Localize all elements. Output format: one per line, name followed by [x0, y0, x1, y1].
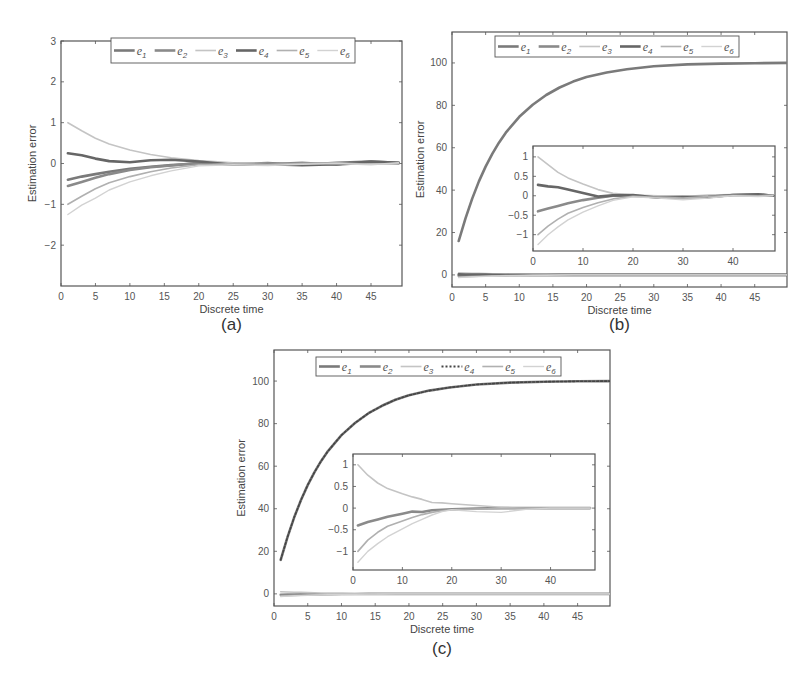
y-tick-label: 20: [436, 227, 448, 238]
x-tick-label: 25: [228, 291, 240, 302]
y-tick-label: 0.5: [514, 171, 528, 182]
y-tick-label: 80: [436, 100, 448, 111]
x-tick-label: 35: [682, 292, 694, 303]
x-tick-label: 15: [547, 292, 559, 303]
y-tick-label: 0: [50, 158, 56, 169]
x-tick-label: 45: [572, 611, 584, 622]
y-tick-label: 20: [258, 546, 270, 557]
panel-a-chart: 051015202530354045−2−10123Discrete timeE…: [26, 36, 402, 335]
y-tick-label: 1: [522, 151, 528, 162]
x-tick-label: 30: [648, 292, 660, 303]
x-tick-label: 20: [446, 575, 458, 586]
y-tick-label: 1: [50, 117, 56, 128]
x-axis-label: Discrete time: [199, 303, 263, 315]
y-tick-label: 100: [430, 57, 447, 68]
y-tick-label: 0: [441, 269, 447, 280]
x-tick-label: 10: [397, 575, 409, 586]
x-tick-label: 20: [193, 291, 205, 302]
panel-b-chart: 051015202530354045020406080100Discrete t…: [414, 32, 787, 334]
panel-caption: (a): [221, 315, 242, 334]
x-tick-label: 10: [124, 291, 136, 302]
y-tick-label: −1: [517, 229, 529, 240]
y-tick-label: 100: [252, 376, 269, 387]
x-tick-label: 30: [471, 611, 483, 622]
x-tick-label: 35: [297, 291, 309, 302]
x-tick-label: 5: [305, 611, 311, 622]
x-tick-label: 20: [627, 256, 639, 267]
y-tick-label: 0.5: [334, 481, 348, 492]
x-tick-label: 40: [331, 291, 343, 302]
figure: 051015202530354045−2−10123Discrete timeE…: [0, 0, 811, 686]
y-axis-label: Estimation error: [26, 124, 38, 202]
y-tick-label: 40: [258, 503, 270, 514]
x-axis-label: Discrete time: [410, 623, 474, 635]
x-tick-label: 10: [514, 292, 526, 303]
y-tick-label: 0: [342, 503, 348, 514]
x-tick-label: 15: [370, 611, 382, 622]
x-tick-label: 10: [336, 611, 348, 622]
panel-caption: (b): [609, 315, 630, 334]
x-tick-label: 15: [159, 291, 171, 302]
x-tick-label: 0: [350, 575, 356, 586]
x-tick-label: 5: [93, 291, 99, 302]
x-tick-label: 0: [449, 292, 455, 303]
y-tick-label: −0.5: [328, 524, 348, 535]
x-tick-label: 35: [505, 611, 517, 622]
y-tick-label: 40: [436, 185, 448, 196]
x-tick-label: 45: [365, 291, 377, 302]
x-tick-label: 0: [58, 291, 64, 302]
y-axis-label: Estimation error: [235, 439, 247, 517]
x-tick-label: 5: [483, 292, 489, 303]
y-tick-label: −0.5: [508, 210, 528, 221]
x-tick-label: 0: [530, 256, 536, 267]
x-tick-label: 25: [437, 611, 449, 622]
y-tick-label: −2: [45, 240, 57, 251]
y-tick-label: −1: [45, 199, 57, 210]
x-tick-label: 30: [496, 575, 508, 586]
y-tick-label: 1: [342, 459, 348, 470]
y-tick-label: 2: [50, 76, 56, 87]
y-tick-label: 0: [522, 190, 528, 201]
y-tick-label: 0: [263, 588, 269, 599]
x-tick-label: 30: [262, 291, 274, 302]
y-tick-label: 60: [258, 461, 270, 472]
x-tick-label: 45: [749, 292, 761, 303]
panel-caption: (c): [432, 639, 452, 658]
panel-c-chart: 051015202530354045020406080100Discrete t…: [235, 350, 610, 658]
x-tick-label: 20: [581, 292, 593, 303]
y-tick-label: 80: [258, 418, 270, 429]
x-tick-label: 10: [577, 256, 589, 267]
x-tick-label: 0: [271, 611, 277, 622]
x-tick-label: 40: [727, 256, 739, 267]
x-tick-label: 40: [538, 611, 550, 622]
y-tick-label: 3: [50, 36, 56, 47]
y-axis-label: Estimation error: [414, 120, 426, 198]
x-tick-label: 40: [545, 575, 557, 586]
x-tick-label: 40: [716, 292, 728, 303]
inset-chart: 010203040−1−0.500.51: [508, 146, 775, 267]
x-tick-label: 25: [615, 292, 627, 303]
x-tick-label: 30: [677, 256, 689, 267]
y-tick-label: 60: [436, 142, 448, 153]
y-tick-label: −1: [337, 546, 349, 557]
inset-chart: 010203040−1−0.500.51: [328, 454, 595, 586]
x-tick-label: 20: [403, 611, 415, 622]
